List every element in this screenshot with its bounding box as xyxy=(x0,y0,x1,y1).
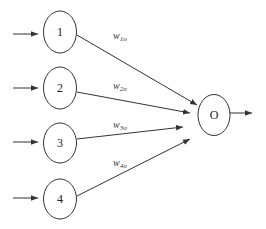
weight-label-1: w1o xyxy=(113,30,127,43)
weight-label-2: w2o xyxy=(113,80,127,93)
input-node-2-label: 2 xyxy=(57,81,63,95)
input-node-3: 3 xyxy=(44,123,77,163)
connections xyxy=(77,35,197,196)
output-node: O xyxy=(198,95,230,136)
weight-label-3: w3o xyxy=(113,119,127,132)
input-node-1: 1 xyxy=(44,11,77,53)
input-node-4: 4 xyxy=(44,179,77,219)
input-node-4-label: 4 xyxy=(57,192,63,206)
output-node-label: O xyxy=(210,108,219,122)
connection-4 xyxy=(77,139,190,196)
input-node-1-label: 1 xyxy=(57,25,63,39)
connection-2 xyxy=(77,92,190,113)
neural-network-diagram: 1 2 3 4 w1o w2o w3o w4o O xyxy=(0,0,266,229)
input-arrows xyxy=(13,34,38,198)
weight-label-4: w4o xyxy=(113,157,127,170)
connection-3 xyxy=(77,127,183,139)
input-node-3-label: 3 xyxy=(57,136,63,150)
connection-1 xyxy=(77,35,197,105)
input-node-2: 2 xyxy=(44,67,77,109)
